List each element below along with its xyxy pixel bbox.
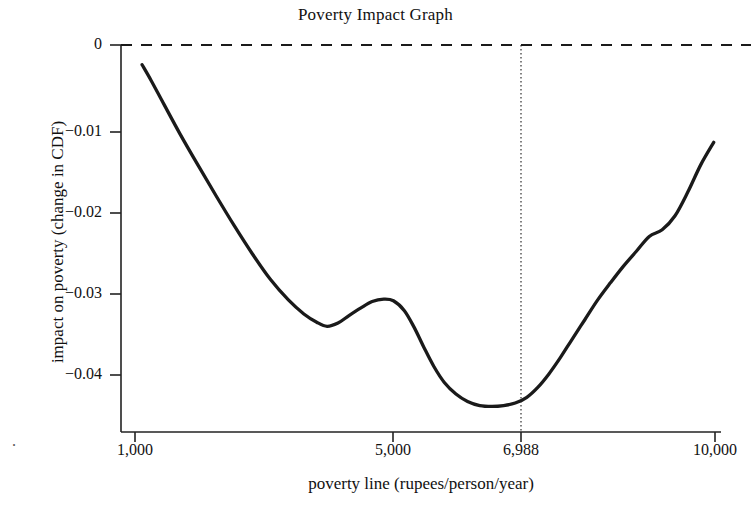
impact-curve	[142, 65, 714, 407]
x-tick-label-5000: 5,000	[333, 441, 453, 459]
y-axis-label: impact on poverty (change in CDF)	[48, 62, 68, 422]
y-axis-ticks	[110, 45, 121, 375]
poverty-impact-chart-figure: Poverty Impact Graph 0 −0.01 −0.02	[0, 0, 751, 508]
chart-plot-area	[0, 0, 751, 508]
x-axis-label: poverty line (rupees/person/year)	[121, 474, 721, 494]
x-tick-label-10000: 10,000	[655, 441, 751, 459]
x-tick-label-1000: 1,000	[75, 441, 195, 459]
x-tick-label-6988: 6,988	[461, 441, 581, 459]
corner-mark: .	[12, 432, 16, 450]
y-tick-label-0: 0	[10, 35, 102, 53]
